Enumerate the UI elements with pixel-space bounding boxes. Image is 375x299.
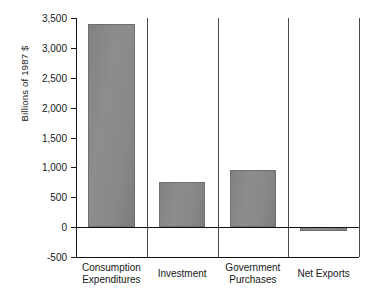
y-tick-label: 3,500 — [42, 13, 67, 24]
category-label-row: ConsumptionExpendituresInvestmentGovernm… — [76, 258, 359, 290]
y-tick-label: 500 — [50, 192, 67, 203]
y-tick-label: 2,500 — [42, 72, 67, 83]
category-label: Net Exports — [288, 258, 359, 290]
y-tick-label: -500 — [47, 252, 67, 263]
category-separator — [147, 18, 148, 257]
category-label: ConsumptionExpenditures — [76, 258, 147, 290]
y-axis-title: Billions of 1987 $ — [19, 14, 30, 154]
bar-chart-figure: Billions of 1987 $ 3,5003,0002,5002,0001… — [0, 0, 375, 299]
bar — [230, 170, 277, 227]
y-tick-label: 3,000 — [42, 42, 67, 53]
y-tick — [71, 78, 77, 79]
y-tick — [71, 18, 77, 19]
y-tick-label: 2,000 — [42, 102, 67, 113]
category-separator — [359, 18, 360, 257]
zero-baseline — [76, 227, 359, 228]
y-tick — [71, 138, 77, 139]
bar — [88, 24, 135, 227]
category-label: GovernmentPurchases — [218, 258, 289, 290]
plot-area: 3,5003,0002,5002,0001,5001,0005000-500 — [76, 18, 359, 257]
y-tick-label: 1,000 — [42, 162, 67, 173]
category-separator — [218, 18, 219, 257]
category-separator — [288, 18, 289, 257]
y-tick — [71, 167, 77, 168]
y-tick — [71, 48, 77, 49]
y-tick-label: 0 — [61, 222, 67, 233]
bar — [159, 182, 206, 227]
y-tick — [71, 197, 77, 198]
category-label: Investment — [147, 258, 218, 290]
y-tick-label: 1,500 — [42, 132, 67, 143]
y-tick — [71, 108, 77, 109]
